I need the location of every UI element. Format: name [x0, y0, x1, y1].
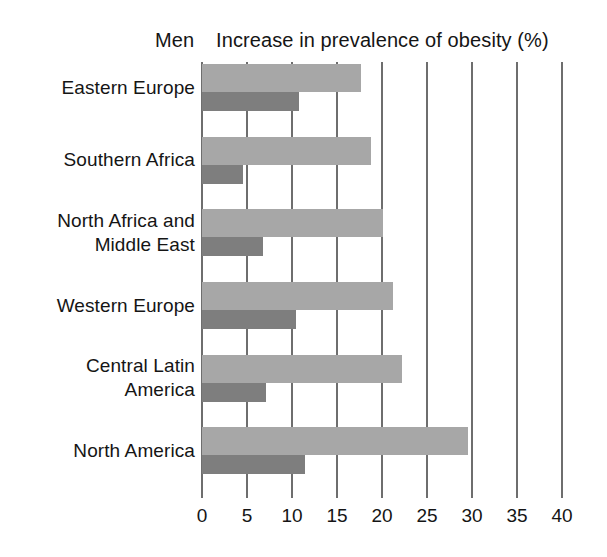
x-tick-mark [561, 490, 563, 498]
x-tick-label: 10 [281, 505, 302, 527]
x-tick-label: 40 [551, 505, 572, 527]
bar-light [202, 137, 371, 165]
x-tick-mark [336, 490, 338, 498]
page-title: Increase in prevalence of obesity (%) [216, 29, 549, 52]
x-tick-label: 5 [242, 505, 253, 527]
category-label: Western Europe [0, 294, 195, 318]
x-axis: 0510152025303540 [202, 498, 562, 538]
bar-dark [202, 237, 263, 256]
bar-light [202, 355, 402, 383]
x-tick-mark [381, 490, 383, 498]
category-axis-labels: Eastern EuropeSouthern AfricaNorth Afric… [0, 62, 195, 498]
chart-header: Men Increase in prevalence of obesity (%… [0, 29, 607, 55]
group-label: Men [155, 29, 194, 52]
plot-area [202, 62, 562, 498]
bar-dark [202, 455, 305, 474]
category-label: Central Latin America [0, 354, 195, 402]
bar-light [202, 209, 383, 237]
x-tick-label: 25 [416, 505, 437, 527]
x-tick-mark [516, 490, 518, 498]
x-tick-label: 15 [326, 505, 347, 527]
category-label: North Africa and Middle East [0, 209, 195, 257]
category-label: Eastern Europe [0, 76, 195, 100]
x-tick-mark [426, 490, 428, 498]
x-tick-mark [246, 490, 248, 498]
x-tick-mark [471, 490, 473, 498]
bar-dark [202, 310, 296, 329]
bar-light [202, 64, 361, 92]
x-tick-mark [291, 490, 293, 498]
obesity-bar-chart: Men Increase in prevalence of obesity (%… [0, 0, 607, 557]
x-tick-label: 30 [461, 505, 482, 527]
bar-dark [202, 165, 243, 184]
category-label: Southern Africa [0, 148, 195, 172]
bar-light [202, 282, 393, 310]
x-tick-label: 20 [371, 505, 392, 527]
x-tick-label: 35 [506, 505, 527, 527]
x-tick-label: 0 [197, 505, 208, 527]
category-label: North America [0, 439, 195, 463]
x-tick-mark [201, 490, 203, 498]
bars-layer [202, 62, 562, 498]
bar-light [202, 427, 468, 455]
bar-dark [202, 92, 299, 111]
bar-dark [202, 383, 266, 402]
